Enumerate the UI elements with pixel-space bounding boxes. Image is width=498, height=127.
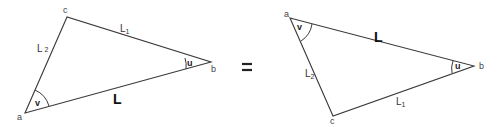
left-angle-u-label: u — [187, 58, 193, 68]
right-vertex-b-label: b — [479, 61, 484, 71]
left-vertex-a-label: a — [17, 112, 22, 122]
equals-sign — [242, 64, 252, 70]
right-side-L1-label: L1 — [396, 96, 406, 108]
left-side-L-label: L — [113, 91, 122, 107]
right-angle-u-label: u — [455, 61, 461, 71]
right-side-L-label: L — [374, 29, 383, 45]
left-side-L2-label: L2 — [37, 43, 49, 54]
right-angle-v-arc — [301, 24, 312, 41]
right-triangle: a b c L L2 L1 u v — [284, 9, 484, 126]
right-vertex-c-label: c — [330, 116, 335, 126]
left-angle-v-label: v — [35, 98, 40, 108]
right-angle-u-arc — [452, 61, 453, 73]
right-vertex-a-label: a — [284, 9, 289, 19]
left-vertex-b-label: b — [211, 64, 216, 74]
triangle-equivalence-diagram: a b c L1 L2 L u v a b c L L2 L1 u v — [0, 0, 498, 127]
right-angle-v-label: v — [297, 22, 302, 32]
left-triangle: a b c L1 L2 L u v — [17, 5, 216, 122]
left-vertex-c-label: c — [63, 5, 68, 15]
left-side-L1-label: L1 — [120, 23, 130, 35]
